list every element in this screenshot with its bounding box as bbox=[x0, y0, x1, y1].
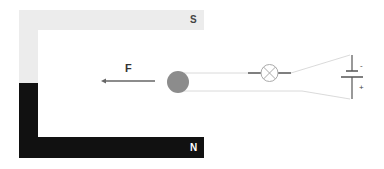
magnet-north-pole bbox=[19, 83, 204, 158]
south-pole-label: S bbox=[190, 14, 197, 25]
diagram-canvas: S N F - + bbox=[0, 0, 384, 169]
battery-negative-label: - bbox=[360, 61, 363, 70]
battery-positive-label: + bbox=[359, 83, 364, 92]
north-pole-label: N bbox=[190, 142, 197, 153]
force-arrow bbox=[101, 79, 155, 84]
conductor-circle bbox=[167, 71, 189, 93]
force-label: F bbox=[125, 62, 132, 74]
lamp-icon bbox=[248, 65, 291, 82]
